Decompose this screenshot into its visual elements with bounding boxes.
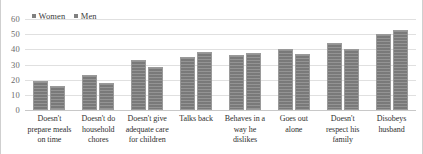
- bar-group: [172, 19, 221, 110]
- bar: [180, 57, 195, 110]
- bar: [376, 34, 391, 110]
- bar: [229, 55, 244, 110]
- square-marker: [74, 14, 78, 18]
- square-marker: [32, 14, 36, 18]
- legend-label: Men: [81, 12, 97, 21]
- x-axis-category-label: Talks back: [172, 112, 221, 154]
- bar-group: [318, 19, 367, 110]
- bar-group: [367, 19, 416, 110]
- bar-group: [221, 19, 270, 110]
- y-axis-tick-label: 50: [11, 30, 20, 39]
- bar: [295, 54, 310, 110]
- bar-group: [269, 19, 318, 110]
- x-axis-category-label: Doesn't give adequate care for children: [123, 112, 172, 154]
- x-axis-category-label: Doesn't respect his family: [318, 112, 367, 154]
- y-axis-tick-label: 0: [16, 106, 20, 115]
- y-axis-tick-label: 60: [11, 15, 20, 24]
- gridline: [25, 110, 416, 111]
- legend-entry: Men: [74, 12, 96, 21]
- bar: [148, 67, 163, 110]
- y-axis-tick-label: 20: [11, 75, 20, 84]
- y-axis-tick-label: 30: [11, 60, 20, 69]
- bar-group: [123, 19, 172, 110]
- bar: [246, 53, 261, 110]
- bar: [82, 75, 97, 110]
- y-axis-tick-label: 10: [11, 91, 20, 100]
- bar: [99, 83, 114, 110]
- bar: [131, 60, 146, 110]
- plot-area: [25, 19, 416, 110]
- bar: [197, 52, 212, 110]
- x-axis-category-labels: Doesn't prepare meals on timeDoesn't do …: [25, 112, 416, 154]
- legend-entry: Women: [32, 12, 65, 21]
- y-axis-tick-labels: 6050403020100: [1, 19, 23, 110]
- y-axis-tick-label: 40: [11, 45, 20, 54]
- bar: [50, 86, 65, 110]
- bar: [278, 49, 293, 110]
- bar: [33, 81, 48, 110]
- chart-legend: WomenMen: [32, 12, 97, 21]
- x-axis-category-label: Behaves in a way he dislikes: [221, 112, 270, 154]
- bar-group: [74, 19, 123, 110]
- bar: [327, 43, 342, 110]
- bar-groups: [25, 19, 416, 110]
- x-axis-category-label: Goes out alone: [269, 112, 318, 154]
- bar: [393, 30, 408, 110]
- bar-chart: 6050403020100 WomenMen Doesn't prepare m…: [0, 0, 423, 154]
- legend-label: Women: [39, 12, 66, 21]
- x-axis-category-label: Doesn't prepare meals on time: [25, 112, 74, 154]
- bar: [344, 49, 359, 110]
- x-axis-category-label: Doesn't do household chores: [74, 112, 123, 154]
- x-axis-category-label: Disobeys husband: [367, 112, 416, 154]
- bar-group: [25, 19, 74, 110]
